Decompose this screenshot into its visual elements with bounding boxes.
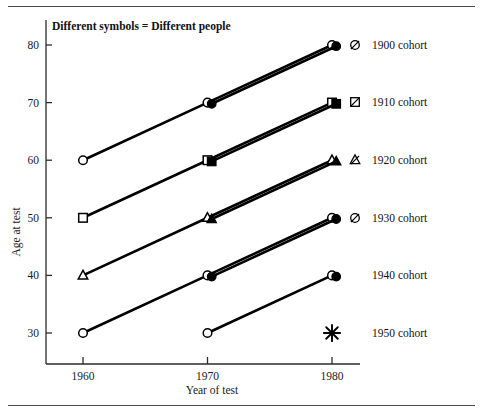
series-1920-cohort-open [78,155,336,279]
legend-label: 1920 cohort [372,154,428,166]
legend-marker-triangle-slashed-icon [350,155,359,164]
legend-marker-circle-slashed-icon [351,214,360,223]
data-point-square-open-marker [79,214,88,223]
series-line [212,104,337,162]
y-tick-label: 80 [28,39,40,51]
series-1940-cohort-open [203,271,336,337]
series-line [212,219,337,277]
data-point-circle-filled-marker [332,42,341,51]
legend-label: 1940 cohort [372,269,428,281]
chart-figure: 304050607080 196019701980 Age at test Ye… [0,0,483,416]
legend-marker-circle-slashed-icon [351,41,360,50]
x-tick-label: 1960 [72,370,95,382]
y-axis-tick-labels: 304050607080 [28,39,40,339]
x-tick-label: 1980 [321,370,344,382]
data-point-circle-filled-marker [332,272,341,281]
data-point-circle-filled-marker [207,100,216,109]
data-point-square-filled-marker [207,157,216,166]
legend-entry-1930-cohort[interactable]: 1930 cohort [351,212,428,224]
legend-entry-1950-cohort[interactable]: 1950 cohort [372,327,428,339]
x-axis-tick-labels: 196019701980 [72,370,344,382]
series-1940-cohort-filled [332,272,341,281]
chart-note: Different symbols = Different people [52,20,231,33]
y-tick-label: 30 [28,327,40,339]
data-point-square-filled-marker [332,100,341,109]
y-tick-label: 40 [28,269,40,281]
chart-canvas: 304050607080 196019701980 Age at test Ye… [0,0,483,416]
y-tick-label: 50 [28,212,40,224]
legend-entry-1900-cohort[interactable]: 1900 cohort [351,39,428,51]
legend-entry-1940-cohort[interactable]: 1940 cohort [372,269,428,281]
y-tick-label: 60 [28,154,40,166]
legend-label: 1900 cohort [372,39,428,51]
x-tick-label: 1970 [196,370,219,382]
legend-label: 1950 cohort [372,327,428,339]
legend-marker-square-slashed-icon [351,98,360,107]
legend-label: 1930 cohort [372,212,428,224]
series-1950-cohort-filled [324,325,340,341]
y-axis-ticks [46,45,52,333]
data-point-circle-filled-marker [207,272,216,281]
x-axis-title: Year of test [186,384,239,396]
data-point-circle-filled-marker [332,215,341,224]
data-point-circle-open-marker [79,329,88,338]
data-point-circle-open-marker [203,329,212,338]
data-point-asterisk-filled-marker [324,325,340,341]
series-line [212,161,337,219]
series-line [212,46,337,104]
y-axis-title: Age at test [10,207,23,257]
data-point-circle-open-marker [79,156,88,165]
axes-group: 304050607080 196019701980 [28,20,361,382]
series-1930-cohort-filled [207,215,340,281]
legend-entry-1910-cohort[interactable]: 1910 cohort [351,96,428,108]
legend-entry-1920-cohort[interactable]: 1920 cohort [350,154,428,166]
legend-label: 1910 cohort [372,96,428,108]
series-1900-cohort-filled [207,42,340,108]
chart-legend: 1900 cohort1910 cohort1920 cohort1930 co… [350,39,428,339]
series-line [208,275,333,333]
data-series-layer [78,41,341,341]
x-axis-ticks [83,357,332,364]
series-1910-cohort-filled [207,100,340,166]
y-tick-label: 70 [28,97,40,109]
